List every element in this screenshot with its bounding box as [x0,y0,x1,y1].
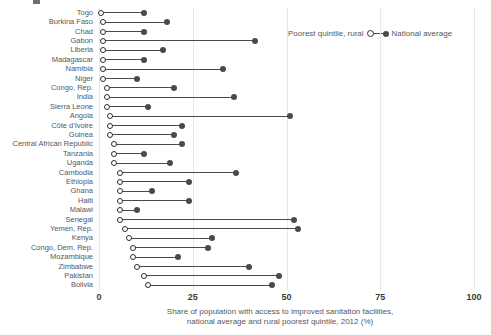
connector-line [103,40,255,41]
connector-line [114,163,170,164]
poorest-quintile-point[interactable] [100,19,106,25]
national-average-point[interactable] [134,207,140,213]
national-average-point[interactable] [291,217,297,223]
plot-area [99,8,474,290]
poorest-quintile-point[interactable] [111,141,117,147]
connector-line [101,12,144,13]
poorest-quintile-point[interactable] [100,76,106,82]
national-average-point[interactable] [269,282,275,288]
poorest-quintile-point[interactable] [107,132,113,138]
poorest-quintile-point[interactable] [100,57,106,63]
national-average-point[interactable] [209,235,215,241]
x-tick-label: 0 [96,292,101,302]
national-average-point[interactable] [179,123,185,129]
connector-line [133,257,178,258]
poorest-quintile-point[interactable] [111,160,117,166]
national-average-point[interactable] [295,226,301,232]
connector-line [103,78,137,79]
category-label: Bolivia [0,280,93,290]
national-average-point[interactable] [179,141,185,147]
national-average-point[interactable] [175,254,181,260]
poorest-quintile-point[interactable] [104,94,110,100]
connector-line [103,31,144,32]
connector-line [137,266,250,267]
connector-line [129,238,212,239]
national-average-point[interactable] [186,179,192,185]
poorest-quintile-point[interactable] [117,179,123,185]
national-average-point[interactable] [276,273,282,279]
poorest-quintile-point[interactable] [117,170,123,176]
poorest-quintile-point[interactable] [134,264,140,270]
national-average-point[interactable] [141,10,147,16]
x-axis-title-line1: Share of population with access to impro… [70,307,490,317]
poorest-quintile-point[interactable] [104,104,110,110]
dumbbell-row [99,280,474,290]
x-axis-title: Share of population with access to impro… [70,307,490,327]
poorest-quintile-point[interactable] [117,217,123,223]
figure-corner-mark [33,0,40,4]
national-average-point[interactable] [141,57,147,63]
connector-line [120,200,189,201]
connector-line [110,116,290,117]
national-average-point[interactable] [171,132,177,138]
national-average-point[interactable] [145,104,151,110]
poorest-quintile-point[interactable] [145,282,151,288]
connector-line [125,228,298,229]
poorest-quintile-point[interactable] [100,47,106,53]
national-average-point[interactable] [141,29,147,35]
x-tick-label: 100 [466,292,481,302]
poorest-quintile-point[interactable] [117,207,123,213]
poorest-quintile-point[interactable] [117,188,123,194]
poorest-quintile-point[interactable] [107,113,113,119]
x-tick-label: 75 [375,292,385,302]
poorest-quintile-point[interactable] [141,273,147,279]
poorest-quintile-point[interactable] [100,66,106,72]
connector-line [103,59,144,60]
poorest-quintile-point[interactable] [130,254,136,260]
national-average-point[interactable] [134,76,140,82]
national-average-point[interactable] [160,47,166,53]
poorest-quintile-point[interactable] [98,10,104,16]
dumbbell-chart: Poorest quintile, rural National average… [0,0,491,335]
connector-line [120,219,294,220]
national-average-point[interactable] [252,38,258,44]
national-average-point[interactable] [141,151,147,157]
national-average-point[interactable] [220,66,226,72]
national-average-point[interactable] [164,19,170,25]
national-average-point[interactable] [205,245,211,251]
connector-line [144,275,279,276]
national-average-point[interactable] [149,188,155,194]
poorest-quintile-point[interactable] [100,38,106,44]
x-tick-label: 50 [281,292,291,302]
national-average-point[interactable] [246,264,252,270]
poorest-quintile-point[interactable] [122,226,128,232]
poorest-quintile-point[interactable] [117,198,123,204]
national-average-point[interactable] [287,113,293,119]
connector-line [114,144,182,145]
x-tick-label: 25 [188,292,198,302]
connector-line [120,181,189,182]
poorest-quintile-point[interactable] [111,151,117,157]
national-average-point[interactable] [233,170,239,176]
connector-line [103,50,163,51]
poorest-quintile-point[interactable] [130,245,136,251]
connector-line [110,125,181,126]
connector-line [107,87,175,88]
connector-line [107,97,235,98]
connector-line [133,247,208,248]
connector-line [103,69,223,70]
connector-line [148,285,272,286]
poorest-quintile-point[interactable] [104,85,110,91]
poorest-quintile-point[interactable] [107,123,113,129]
poorest-quintile-point[interactable] [126,235,132,241]
x-axis-ticks: 0255075100 [99,292,474,306]
connector-line [114,153,144,154]
connector-line [120,172,236,173]
national-average-point[interactable] [171,85,177,91]
national-average-point[interactable] [186,198,192,204]
x-axis-title-line2: national average and rural poorest quint… [70,317,490,327]
poorest-quintile-point[interactable] [100,29,106,35]
national-average-point[interactable] [231,94,237,100]
category-axis-labels: TogoBurkina FasoChadGabonLiberiaMadagasc… [0,8,93,290]
national-average-point[interactable] [167,160,173,166]
